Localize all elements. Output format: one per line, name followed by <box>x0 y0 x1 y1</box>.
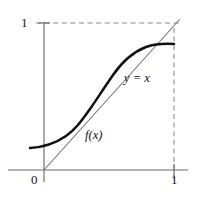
identity-line-y-equals-x <box>44 19 180 170</box>
axis-label-x-one: 1 <box>171 173 178 186</box>
plot-canvas <box>0 0 199 197</box>
figure-container: 0 1 1 y = x f(x) <box>0 0 199 197</box>
axis-label-origin: 0 <box>31 173 38 186</box>
identity-line-label: y = x <box>124 72 150 85</box>
axis-label-y-one: 1 <box>21 16 28 29</box>
function-curve-label: f(x) <box>85 129 102 142</box>
